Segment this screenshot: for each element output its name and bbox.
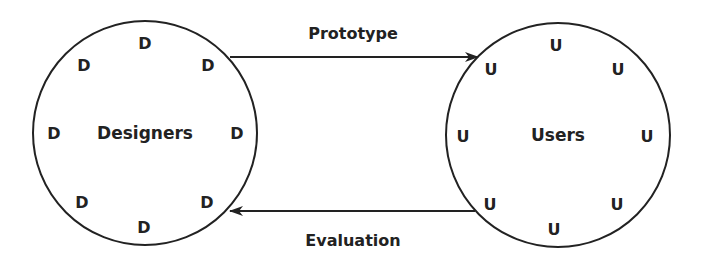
user-member: U: [548, 220, 561, 239]
designer-member: D: [77, 56, 90, 75]
user-member: U: [611, 195, 624, 214]
designer-member: D: [201, 56, 214, 75]
user-member: U: [485, 60, 498, 79]
users-label: Users: [531, 125, 585, 145]
designers-group: Designers D D D D D D D D: [33, 21, 257, 245]
designer-member: D: [75, 193, 88, 212]
designer-member: D: [137, 218, 150, 237]
designer-member: D: [138, 34, 151, 53]
user-member: U: [612, 60, 625, 79]
evaluation-label: Evaluation: [305, 231, 400, 250]
users-group: Users U U U U U U U U: [446, 23, 670, 247]
designers-label: Designers: [97, 123, 193, 143]
user-member: U: [641, 127, 654, 146]
prototype-label: Prototype: [308, 24, 398, 43]
user-member: U: [484, 195, 497, 214]
user-member: U: [550, 36, 563, 55]
designer-member: D: [230, 124, 243, 143]
designer-member: D: [47, 124, 60, 143]
design-cycle-diagram: Designers D D D D D D D D Users U U U U …: [0, 0, 702, 268]
user-member: U: [457, 127, 470, 146]
designer-member: D: [200, 193, 213, 212]
